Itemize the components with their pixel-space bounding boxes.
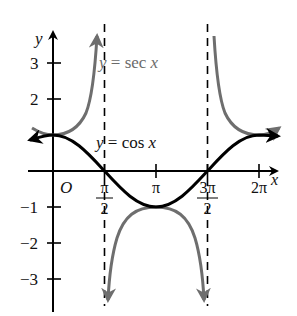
svg-text:π: π	[100, 179, 108, 196]
origin-label: O	[60, 178, 72, 197]
sec-branch-right	[214, 36, 279, 135]
sec-branch-middle-right	[156, 207, 204, 300]
y-tick-label-neg2: −2	[20, 234, 38, 253]
x-tick-label-pi: π	[152, 179, 160, 196]
svg-text:2: 2	[204, 200, 212, 217]
x-axis-label: x	[270, 171, 278, 188]
cos-label: y = cos x	[94, 133, 157, 152]
cos-curve-left-extension	[30, 135, 53, 140]
sec-label: y = sec x	[97, 53, 159, 72]
chart-plot: 3 2 −1 −2 −3 y x O π 2 π 3π 2 2π y = sec…	[0, 0, 297, 316]
svg-text:3π: 3π	[199, 179, 215, 196]
svg-text:2: 2	[101, 200, 109, 217]
y-tick-label-neg1: −1	[20, 198, 38, 217]
y-tick-label-neg3: −3	[20, 270, 38, 289]
y-tick-label-3: 3	[30, 54, 39, 73]
x-tick-label-2pi: 2π	[251, 179, 267, 196]
sec-branch-middle-left	[108, 207, 156, 300]
sec-branch-left	[32, 36, 97, 135]
y-axis-label: y	[33, 29, 43, 48]
y-tick-label-2: 2	[30, 90, 39, 109]
x-tick-label-pi-over-2: π 2	[96, 179, 113, 217]
x-tick-label-3pi-over-2: 3π 2	[197, 179, 218, 217]
